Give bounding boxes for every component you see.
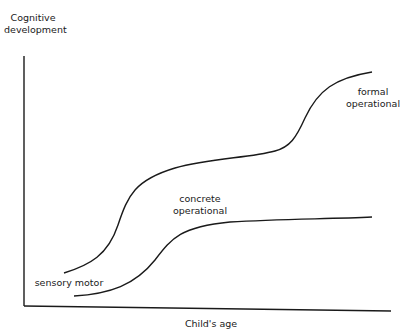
formal-line2: operational xyxy=(338,98,407,110)
x-axis xyxy=(24,306,391,311)
formal-line1: formal xyxy=(338,86,407,98)
concrete-line2: operational xyxy=(160,205,240,217)
annotation-concrete-operational: concrete operational xyxy=(160,193,240,217)
x-axis-label: Child's age xyxy=(176,318,246,330)
annotation-formal-operational: formal operational xyxy=(338,86,407,110)
lower-development-curve xyxy=(74,217,372,296)
annotation-sensory-motor: sensory motor xyxy=(34,277,104,289)
y-axis-label: Cognitive development xyxy=(4,12,62,36)
y-axis-label-line2: development xyxy=(4,24,62,36)
concrete-line1: concrete xyxy=(160,193,240,205)
y-axis-label-line1: Cognitive xyxy=(4,12,62,24)
upper-development-curve xyxy=(64,72,372,273)
